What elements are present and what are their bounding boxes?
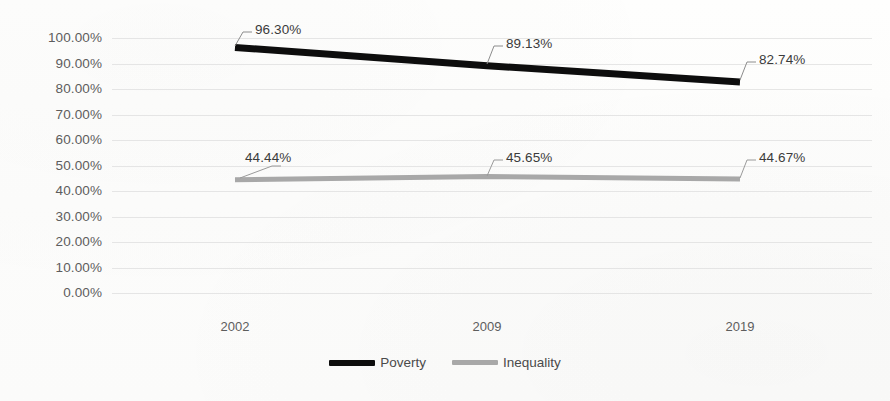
data-label-poverty-2019: 82.74% xyxy=(759,52,805,67)
data-label-poverty-2009: 89.13% xyxy=(506,36,552,51)
leader-line-inequality-2002 xyxy=(240,166,281,178)
x-tick-label-2009: 2009 xyxy=(473,319,502,334)
data-label-inequality-2019: 44.67% xyxy=(759,150,805,165)
leader-line-poverty-2019 xyxy=(740,62,756,80)
legend-label-poverty: Poverty xyxy=(380,355,426,370)
legend-swatch-icon-poverty xyxy=(329,360,375,366)
leader-line-poverty-2002 xyxy=(235,32,252,46)
data-label-poverty-2002: 96.30% xyxy=(255,22,301,37)
leader-line-poverty-2009 xyxy=(487,46,503,64)
legend-item-poverty[interactable]: Poverty xyxy=(329,355,426,370)
data-label-inequality-2009: 45.65% xyxy=(506,150,552,165)
series-line-inequality xyxy=(235,177,740,180)
legend-item-inequality[interactable]: Inequality xyxy=(452,355,561,370)
leader-line-inequality-2009 xyxy=(487,160,503,176)
data-label-inequality-2002: 44.44% xyxy=(245,150,291,165)
series-line-poverty xyxy=(235,47,740,82)
plot-area xyxy=(0,0,890,401)
legend-swatch-icon-inequality xyxy=(452,360,498,365)
line-chart: 100.00% 90.00% 80.00% 70.00% 60.00% 50.0… xyxy=(0,0,890,401)
leader-line-inequality-2019 xyxy=(740,160,756,178)
legend-label-inequality: Inequality xyxy=(503,355,561,370)
chart-legend: Poverty Inequality xyxy=(0,355,890,370)
x-tick-label-2002: 2002 xyxy=(221,319,250,334)
x-tick-label-2019: 2019 xyxy=(726,319,755,334)
